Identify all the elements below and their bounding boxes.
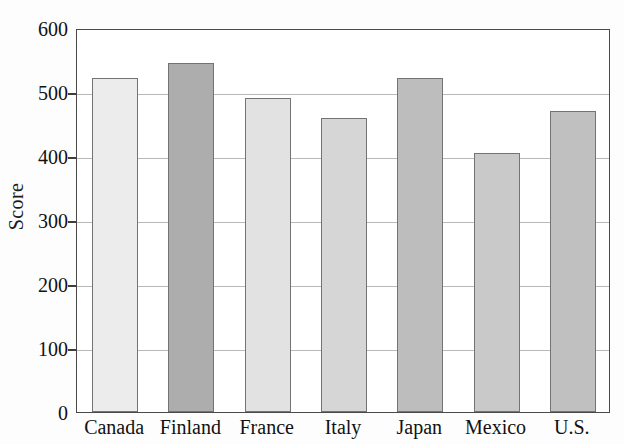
bar bbox=[550, 111, 596, 412]
y-axis-tick bbox=[68, 285, 76, 287]
y-axis-tick-label: 400 bbox=[6, 146, 68, 169]
y-axis-tick-label: 100 bbox=[6, 338, 68, 361]
plot-area bbox=[76, 29, 610, 413]
bar bbox=[397, 78, 443, 412]
y-axis-tick-labels: 0100200300400500600 bbox=[0, 0, 68, 444]
bar bbox=[92, 78, 138, 412]
x-axis-tick-label: France bbox=[239, 416, 293, 439]
y-axis-tick bbox=[68, 349, 76, 351]
y-axis-tick-label: 200 bbox=[6, 274, 68, 297]
y-axis-tick-label: 500 bbox=[6, 82, 68, 105]
y-axis-tick bbox=[68, 157, 76, 159]
y-axis-tick bbox=[68, 221, 76, 223]
x-axis-tick-labels: CanadaFinlandFranceItalyJapanMexicoU.S. bbox=[76, 416, 610, 444]
x-axis-tick-label: Japan bbox=[397, 416, 443, 439]
x-axis-tick-label: U.S. bbox=[554, 416, 590, 439]
y-axis-tick-label: 300 bbox=[6, 210, 68, 233]
bar bbox=[474, 153, 520, 412]
x-axis-tick-label: Italy bbox=[325, 416, 362, 439]
y-axis-tick-label: 0 bbox=[6, 402, 68, 425]
y-axis-tick-label: 600 bbox=[6, 18, 68, 41]
gridline bbox=[77, 94, 609, 95]
bar bbox=[245, 98, 291, 412]
x-axis-tick-label: Canada bbox=[84, 416, 144, 439]
chart-page: Score 0100200300400500600 CanadaFinlandF… bbox=[0, 0, 624, 444]
x-axis-tick-label: Mexico bbox=[465, 416, 526, 439]
x-axis-tick-label: Finland bbox=[160, 416, 221, 439]
bar bbox=[321, 118, 367, 412]
bar bbox=[168, 63, 214, 412]
y-axis-tick bbox=[68, 93, 76, 95]
